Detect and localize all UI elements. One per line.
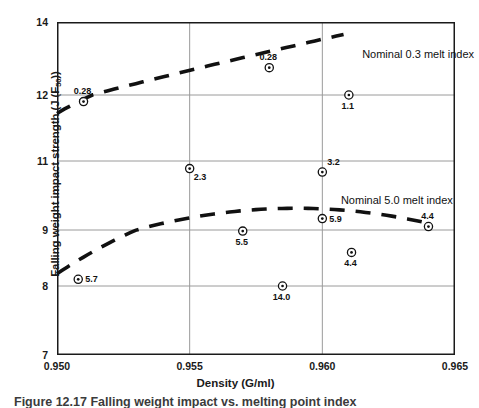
x-tick-label-0950: 0.950 [27, 361, 87, 372]
trend-curve-nominal-03 [57, 34, 344, 113]
gridlines [57, 22, 455, 355]
x-tick-label-0960: 0.960 [292, 361, 352, 372]
plot-frame [58, 23, 455, 355]
data-marker-center-dot [77, 278, 80, 281]
data-point-label: 3.2 [327, 158, 340, 167]
data-point-label: 5.7 [85, 275, 98, 284]
plot-area: 0.280.281.15.72.35.514.03.25.94.44.4Nomi… [57, 22, 455, 355]
data-marker-center-dot [268, 66, 271, 69]
data-marker-center-dot [82, 100, 85, 103]
x-tick-label-0955: 0.955 [160, 361, 220, 372]
data-point-label: 5.9 [329, 215, 342, 224]
data-point-label: 4.4 [321, 259, 381, 268]
y-tick-label-7: 7 [14, 350, 48, 361]
y-tick-label-8: 8 [14, 281, 48, 292]
data-marker-center-dot [348, 94, 351, 97]
series-annotation: Nominal 0.3 melt index [362, 49, 474, 60]
data-point-label: 0.28 [53, 87, 113, 96]
y-tick-label-12: 12 [14, 90, 48, 101]
data-marker-center-dot [188, 167, 191, 170]
data-marker-center-dot [281, 285, 284, 288]
y-tick-label-9: 9 [14, 225, 48, 236]
data-marker-center-dot [321, 217, 324, 220]
y-tick-label-11: 11 [14, 156, 48, 167]
data-marker-center-dot [427, 225, 430, 228]
data-point-label: 2.3 [194, 173, 207, 182]
data-marker-center-dot [350, 251, 353, 254]
data-point-label: 0.28 [238, 53, 298, 62]
figure-caption: Figure 12.17 Falling weight impact vs. m… [14, 394, 464, 408]
data-marker-center-dot [321, 171, 324, 174]
axis-frame [58, 23, 455, 355]
y-tick-label-14: 14 [14, 17, 48, 28]
data-marker-center-dot [241, 230, 244, 233]
data-markers [74, 64, 432, 291]
data-point-label: 14.0 [252, 293, 312, 302]
x-axis-label: Density (G/ml) [0, 377, 471, 389]
data-point-label: 1.1 [318, 102, 378, 111]
data-point-label: 4.4 [397, 212, 457, 221]
x-tick-label-0965: 0.965 [425, 361, 479, 372]
data-point-label: 5.5 [212, 238, 272, 247]
plot-svg [57, 22, 455, 355]
series-annotation: Nominal 5.0 melt index [341, 195, 453, 206]
